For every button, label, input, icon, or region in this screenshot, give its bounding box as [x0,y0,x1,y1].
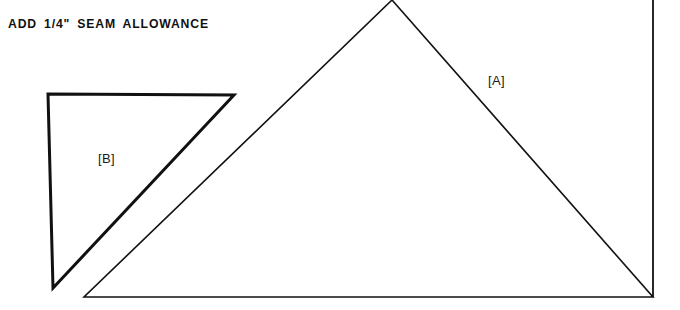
pattern-diagram-page: ADD 1/4" SEAM ALLOWANCE [A] [B] [0,0,680,310]
seam-allowance-instruction: ADD 1/4" SEAM ALLOWANCE [8,17,209,30]
pattern-piece-b-outline [48,94,234,288]
pattern-piece-a-outline [84,0,653,297]
pattern-piece-b-label: [B] [98,152,115,165]
pattern-piece-a-label: [A] [488,74,505,87]
